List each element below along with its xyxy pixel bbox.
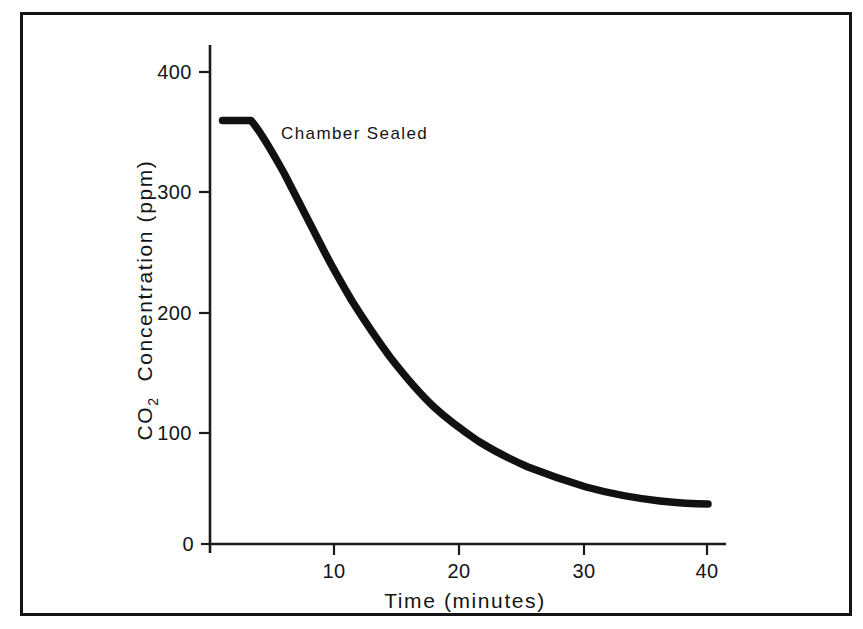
y-tick-label-200: 200: [157, 302, 192, 324]
y-tick-label-400: 400: [157, 61, 192, 83]
co2-decay-chart: 400 300 200 100 0 10 20 30 40 Time (minu…: [0, 0, 863, 629]
co2-decay-curve: [223, 121, 709, 505]
y-axis-title-subscript: 2: [145, 396, 161, 405]
annotation-chamber-sealed: Chamber Sealed: [281, 124, 428, 143]
y-axis-title-prefix: CO: [133, 406, 156, 441]
x-axis-title: Time (minutes): [384, 589, 546, 612]
x-tick-label-30: 30: [572, 560, 595, 582]
y-tick-label-100: 100: [157, 422, 192, 444]
y-axis-title-rest: Concentration (ppm): [133, 160, 156, 382]
y-tick-label-0: 0: [182, 533, 194, 555]
y-axis-title-main: [133, 381, 156, 396]
y-tick-label-300: 300: [157, 181, 192, 203]
x-tick-label-10: 10: [322, 560, 345, 582]
x-tick-label-20: 20: [447, 560, 470, 582]
x-tick-label-40: 40: [695, 560, 718, 582]
figure-page: 400 300 200 100 0 10 20 30 40 Time (minu…: [0, 0, 863, 629]
